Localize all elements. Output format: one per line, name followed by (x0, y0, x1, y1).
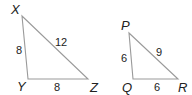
vertex-label-q: Q (122, 80, 132, 95)
vertex-label-y: Y (17, 79, 27, 94)
triangle-pqr: P Q R 6 9 6 (121, 18, 187, 95)
vertex-label-p: P (121, 18, 130, 33)
side-label-yz: 8 (54, 81, 60, 93)
side-label-pq: 6 (121, 52, 127, 64)
triangle-xyz: X Y Z 8 12 8 (10, 2, 99, 95)
diagram-canvas: X Y Z 8 12 8 P Q R 6 9 6 (0, 0, 192, 95)
side-label-qr: 6 (154, 81, 160, 93)
vertex-label-z: Z (89, 80, 99, 95)
side-label-pr: 9 (156, 46, 162, 58)
side-label-xz: 12 (55, 36, 67, 48)
triangle-pqr-outline (129, 33, 178, 79)
side-label-xy: 8 (16, 44, 22, 56)
vertex-label-x: X (10, 2, 21, 17)
vertex-label-r: R (178, 80, 187, 95)
